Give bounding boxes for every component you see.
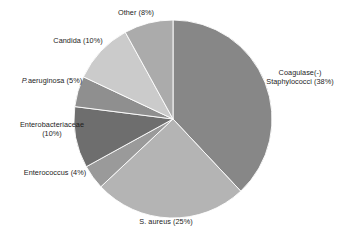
pie-label-enterobacteriaceae-line2: (10%): [0, 129, 104, 138]
pie-label-enterococcus-text: Enterococcus (4%): [24, 168, 87, 177]
pie-label-s-aureus-text: S. aureus (25%): [139, 217, 192, 226]
pie-label-p-aeruginosa: P.aeruginosa (5%): [2, 76, 102, 85]
pie-label-enterobacteriaceae: Enterobacteriaceae (10%): [0, 120, 104, 138]
pie-label-p-aeruginosa-text: aeruginosa (5%): [28, 76, 82, 85]
pie-label-enterococcus: Enterococcus (4%): [0, 168, 110, 177]
pie-label-coagulase-line2: Staphylococci (38%): [256, 77, 344, 86]
pie-label-coagulase-line1: Coagulase(-): [256, 68, 344, 77]
pie-slice-group: [74, 20, 272, 218]
pie-label-enterobacteriaceae-line1: Enterobacteriaceae: [0, 120, 104, 129]
pie-chart-figure: Other (8%) Candida (10%) P.aeruginosa (5…: [0, 0, 344, 239]
pie-label-other-text: Other (8%): [118, 8, 154, 17]
pie-label-candida-text: Candida (10%): [53, 36, 102, 45]
pie-label-coagulase-staphylococci: Coagulase(-) Staphylococci (38%): [256, 68, 344, 86]
pie-label-s-aureus: S. aureus (25%): [112, 217, 220, 226]
pie-label-other: Other (8%): [92, 8, 180, 17]
pie-label-candida: Candida (10%): [26, 36, 130, 45]
